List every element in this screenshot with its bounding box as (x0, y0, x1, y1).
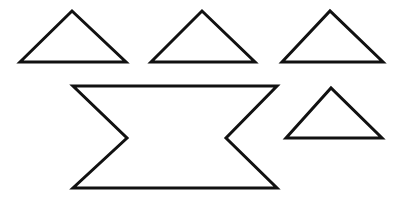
shapes-canvas (0, 0, 404, 199)
figure-container (0, 0, 404, 199)
